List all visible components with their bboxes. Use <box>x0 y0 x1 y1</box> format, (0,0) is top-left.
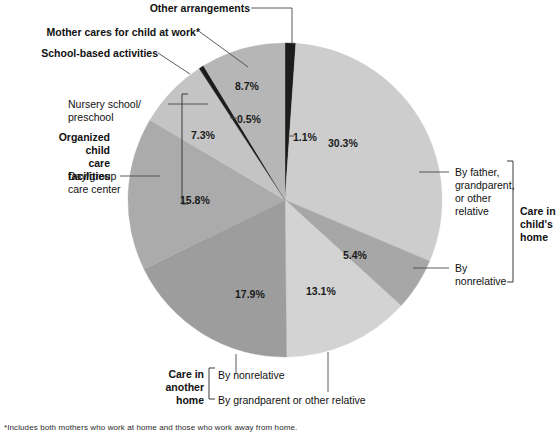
group-organized-line1: Organized <box>0 131 110 144</box>
callout-other-arrangements: Other arrangements <box>40 2 250 15</box>
footnote-text: *Includes both mothers who work at home … <box>4 423 297 432</box>
callout-by-nonrelative-right-line2: nonrelative <box>455 275 506 288</box>
group-care-childs-home-line3: home <box>520 231 548 244</box>
callout-bottom-by-nonrelative: By nonrelative <box>218 369 285 382</box>
group-organized-line2: child <box>0 144 110 157</box>
callout-nursery-school-line1: Nursery school/ <box>68 98 141 111</box>
callout-bottom-by-grandparent: By grandparent or other relative <box>218 394 366 407</box>
callout-school-based-activities: School-based activities <box>6 47 158 60</box>
group-organized-line3: care <box>0 157 110 170</box>
callout-mother-cares-for-child-at-work: Mother cares for child at work* <box>10 26 200 39</box>
group-organized-line4: facilities <box>0 170 110 183</box>
group-care-childs-home-line1: Care in <box>520 205 556 218</box>
group-care-childs-home-line2: child's <box>520 218 553 231</box>
group-care-another-home-line1: Care in <box>100 368 204 381</box>
callout-by-father-line3: or other <box>455 192 491 205</box>
pie-chart-figure: 30.3% 5.4% 13.1% 17.9% 15.8% 7.3% 0.5% 8… <box>0 0 556 435</box>
callout-by-father-line4: relative <box>455 205 489 218</box>
group-care-another-home-line3: home <box>100 394 204 407</box>
group-care-another-home-line2: another <box>100 381 204 394</box>
callout-by-father-line2: grandparent, <box>455 179 515 192</box>
callout-by-nonrelative-right-line1: By <box>455 262 467 275</box>
callout-by-father-line1: By father, <box>455 166 499 179</box>
callout-daygroup-line2: care center <box>68 183 121 196</box>
callout-nursery-school-line2: preschool <box>68 111 114 124</box>
